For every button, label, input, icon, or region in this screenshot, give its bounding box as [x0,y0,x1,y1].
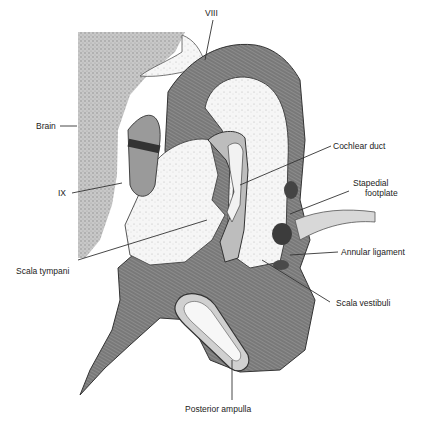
stapedial-footplate-lower [272,223,292,245]
upper-left-ellipse [128,115,160,196]
label-stapedial: Stapedial [353,178,388,188]
label-brain: Brain [36,121,56,131]
label-scala-vestibuli: Scala vestibuli [336,298,390,308]
label-stapedial-footplate: Stapedial footplate [353,178,398,198]
label-footplate: footplate [353,188,398,198]
label-viii: VIII [205,8,218,18]
label-annular-ligament: Annular ligament [341,247,405,257]
stapedial-footplate-upper [284,181,298,199]
inner-ear-diagram [0,0,424,428]
label-ix: IX [58,188,66,198]
stapes-crus [295,210,375,240]
label-scala-tympani: Scala tympani [16,266,69,276]
label-cochlear-duct: Cochlear duct [333,141,385,151]
label-posterior-ampulla: Posterior ampulla [185,404,251,414]
